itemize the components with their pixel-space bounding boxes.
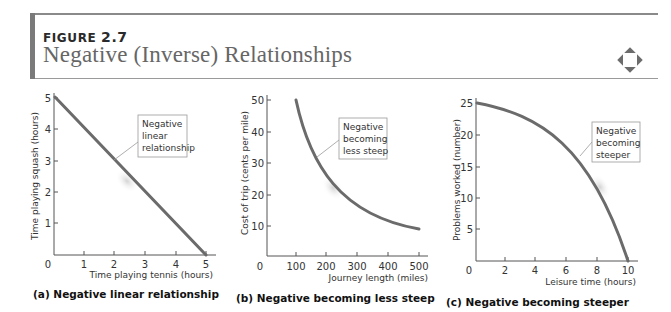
y-axis-label: Time playing squash (hours) [30, 112, 40, 241]
annotation-text: Negative becoming less steep [343, 122, 389, 156]
x-axis-label: Journey length (miles) [328, 273, 428, 283]
svg-text:500: 500 [409, 261, 428, 272]
highlight-glow [111, 165, 144, 198]
svg-text:10: 10 [460, 193, 473, 204]
svg-text:3: 3 [142, 259, 148, 270]
chart-a: 5 4 3 2 1 0 1 2 3 4 5 Time playing tenni… [30, 93, 216, 280]
y-ticks [267, 100, 271, 226]
caption-b: (b) Negative becoming less steep [236, 292, 435, 304]
svg-text:2: 2 [45, 187, 51, 198]
svg-text:linear: linear [142, 131, 168, 141]
caption-c-wrapper: (c) Negative becoming steeper [446, 296, 671, 312]
highlight-glow [317, 171, 349, 204]
y-ticks [54, 98, 58, 223]
svg-text:300: 300 [347, 261, 366, 272]
x-tick-labels: 0 1 2 3 4 5 [45, 259, 209, 270]
svg-text:1: 1 [45, 218, 51, 229]
svg-text:becoming: becoming [343, 134, 387, 144]
x-ticks [84, 251, 206, 255]
svg-text:Negative: Negative [343, 122, 384, 132]
x-tick-labels: 0 2 4 6 8 10 [466, 265, 635, 276]
svg-text:40: 40 [251, 127, 264, 138]
y-axis-label: Problems worked (number) [452, 119, 462, 241]
chart-b: 50 40 30 20 10 0 100 200 300 400 500 Jou… [240, 95, 429, 283]
y-tick-labels: 5 4 3 2 1 [45, 93, 51, 229]
caption-b-wrapper: (b) Negative becoming less steep [236, 292, 436, 309]
svg-text:5: 5 [467, 224, 473, 235]
caption-c: (c) Negative becoming steeper [446, 296, 629, 308]
y-tick-labels: 50 40 30 20 10 [251, 95, 264, 232]
svg-text:1: 1 [81, 259, 87, 270]
svg-text:Negative: Negative [142, 119, 183, 129]
svg-text:4: 4 [45, 124, 51, 135]
caption-a: (a) Negative linear relationship [33, 288, 219, 300]
svg-text:5: 5 [203, 259, 209, 270]
svg-text:5: 5 [45, 93, 51, 104]
svg-text:becoming: becoming [596, 138, 640, 148]
svg-text:20: 20 [460, 130, 473, 141]
svg-text:Negative: Negative [596, 126, 637, 136]
svg-text:4: 4 [532, 265, 538, 276]
svg-text:relationship: relationship [142, 143, 195, 153]
svg-text:steeper: steeper [596, 150, 631, 160]
svg-text:8: 8 [594, 265, 600, 276]
annotation-leader [580, 142, 592, 156]
svg-text:less steep: less steep [343, 146, 389, 156]
x-tick-labels: 0 100 200 300 400 500 [257, 261, 429, 272]
y-axis-label: Cost of trip (cents per mile) [240, 111, 250, 235]
svg-text:25: 25 [460, 98, 473, 109]
svg-text:100: 100 [286, 261, 305, 272]
y-ticks [476, 103, 480, 229]
svg-text:30: 30 [251, 158, 264, 169]
annotation-leader [114, 142, 138, 160]
svg-text:0: 0 [466, 265, 472, 276]
x-axis-label: Time playing tennis (hours) [88, 270, 213, 280]
svg-text:15: 15 [460, 162, 473, 173]
svg-text:10: 10 [251, 221, 264, 232]
svg-text:400: 400 [378, 261, 397, 272]
svg-text:2: 2 [111, 259, 117, 270]
x-ticks [505, 257, 628, 261]
svg-text:4: 4 [173, 259, 179, 270]
svg-text:6: 6 [563, 265, 569, 276]
svg-text:50: 50 [251, 95, 264, 106]
svg-text:200: 200 [316, 261, 335, 272]
svg-text:0: 0 [257, 261, 263, 272]
annotation-leader [317, 140, 339, 157]
x-axis-label: Leisure time (hours) [545, 277, 636, 287]
chart-c: 25 20 15 10 5 0 2 4 6 8 10 Leisure time … [452, 98, 640, 287]
y-tick-labels: 25 20 15 10 5 [460, 98, 473, 235]
svg-text:2: 2 [502, 265, 508, 276]
svg-text:20: 20 [251, 190, 264, 201]
svg-text:10: 10 [622, 265, 635, 276]
svg-text:3: 3 [45, 156, 51, 167]
svg-text:0: 0 [45, 259, 51, 270]
x-ticks [296, 252, 419, 256]
